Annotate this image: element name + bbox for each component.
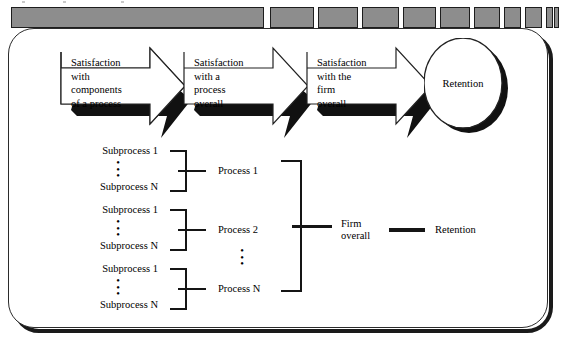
group-3-process-label: Process N	[218, 282, 260, 295]
arrow-3-label: Satisfaction with the firm overall	[317, 56, 391, 110]
flow-arrow-1: Satisfaction with components of a proces…	[57, 38, 192, 138]
flow-arrow-2: Satisfaction with a process overall	[180, 38, 315, 138]
segmented-progress-strip	[0, 7, 563, 29]
figure-canvas: Satisfaction with components of a proces…	[0, 0, 563, 342]
firm-overall-stem	[292, 225, 332, 228]
arrow-2-line-2: with a	[194, 70, 268, 84]
flow-arrow-3: Satisfaction with the firm overall	[303, 38, 438, 138]
strip-speck	[63, 1, 66, 3]
arrow-2-line-1: Satisfaction	[194, 56, 268, 70]
group-1-subprocess-last: Subprocess N	[78, 180, 158, 193]
group-2-subprocess-last: Subprocess N	[78, 239, 158, 252]
strip-segment	[440, 7, 470, 28]
arrow-1-line-3: components	[71, 83, 145, 97]
strip-segment	[403, 7, 436, 28]
arrow-2-label: Satisfaction with a process overall	[194, 56, 268, 110]
group-2-stem	[178, 229, 206, 232]
strip-segment	[474, 7, 500, 28]
strip-segment	[318, 7, 358, 28]
strip-segment	[546, 7, 553, 28]
dot: •	[113, 291, 123, 298]
arrow-1-label: Satisfaction with components of a proces…	[71, 56, 145, 110]
firm-to-retention-link	[389, 228, 425, 232]
firm-overall-line-1: Firm	[341, 218, 370, 230]
strip-segment	[504, 7, 521, 28]
dot: •	[113, 173, 123, 180]
arrow-3-line-3: firm	[317, 83, 391, 97]
group-3-stem	[178, 288, 206, 291]
group-1-vertical-ellipsis: • • •	[113, 160, 123, 180]
strip-segment	[270, 7, 314, 28]
retention-label: Retention	[435, 223, 476, 236]
strip-segment	[554, 7, 559, 28]
arrow-2-line-3: process	[194, 83, 268, 97]
retention-ellipse-label: Retention	[424, 78, 502, 89]
process-vertical-ellipsis: • • •	[237, 248, 247, 268]
group-2-vertical-ellipsis: • • •	[113, 219, 123, 239]
arrow-3-line-2: with the	[317, 70, 391, 84]
retention-ellipse: Retention	[424, 38, 516, 134]
group-1-process-label: Process 1	[218, 164, 258, 177]
strip-segment	[362, 7, 399, 28]
strip-speck	[22, 1, 25, 3]
firm-overall-line-2: overall	[341, 230, 370, 242]
group-3-subprocess-last: Subprocess N	[78, 298, 158, 311]
dot: •	[113, 232, 123, 239]
strip-segment	[525, 7, 542, 28]
dot: •	[237, 261, 247, 268]
group-2-subprocess-first: Subprocess 1	[78, 203, 158, 216]
arrow-2-line-4: overall	[194, 97, 268, 111]
arrow-3-line-4: overall	[317, 97, 391, 111]
strip-speck	[121, 1, 124, 3]
group-3-vertical-ellipsis: • • •	[113, 278, 123, 298]
group-1-stem	[178, 170, 206, 173]
arrow-3-line-1: Satisfaction	[317, 56, 391, 70]
arrow-1-line-1: Satisfaction	[71, 56, 145, 70]
group-1-subprocess-first: Subprocess 1	[78, 144, 158, 157]
group-2-process-label: Process 2	[218, 223, 258, 236]
group-3-subprocess-first: Subprocess 1	[78, 262, 158, 275]
arrow-1-line-2: with	[71, 70, 145, 84]
arrow-1-line-4: of a process	[71, 97, 145, 111]
strip-segment	[11, 7, 264, 28]
firm-overall-label: Firm overall	[341, 218, 370, 242]
